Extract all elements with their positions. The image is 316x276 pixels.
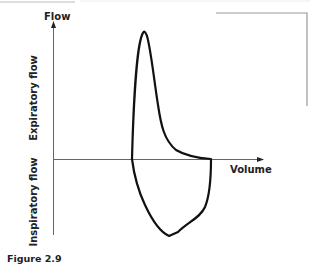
expiratory-flow-label: Expiratory flow [28, 55, 39, 141]
flow-volume-loop [132, 32, 211, 236]
frame-bracket [216, 13, 307, 106]
inspiratory-flow-label: Inspiratory flow [28, 157, 39, 246]
x-axis-label: Volume [230, 164, 272, 175]
y-axis-label: Flow [44, 11, 70, 22]
x-axis-arrow-icon [257, 157, 264, 162]
figure-caption: Figure 2.9 [7, 253, 62, 264]
y-axis-arrow-icon [51, 21, 56, 28]
flow-volume-figure: Flow Volume Expiratory flow Inspiratory … [0, 0, 316, 276]
